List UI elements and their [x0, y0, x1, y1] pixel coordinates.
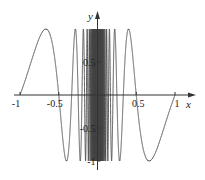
x-tick-label: -0.5	[47, 98, 63, 109]
x-axis-label: x	[185, 98, 191, 110]
x-axis-arrow	[188, 93, 196, 98]
y-tick-label: 0.5	[83, 57, 96, 68]
y-axis-arrow	[95, 11, 100, 19]
y-axis-label: y	[87, 10, 93, 22]
function-plot: -1-0.50.510.5-0.5-1 x y	[0, 0, 205, 180]
y-tick-label: -0.5	[80, 123, 96, 134]
x-tick-label: 1	[175, 98, 180, 109]
y-tick-label: -1	[87, 156, 95, 167]
x-tick-label: 0.5	[132, 98, 145, 109]
x-tick-label: -1	[12, 98, 20, 109]
